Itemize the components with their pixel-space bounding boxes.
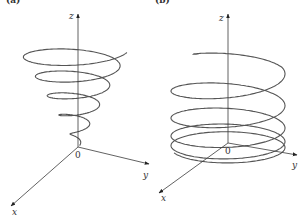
- figure: (a) z y x 0 (b) z y x 0: [0, 0, 300, 219]
- panel-label-a: (a): [6, 0, 20, 5]
- y-axis-label: y: [142, 170, 149, 180]
- origin-label: 0: [225, 146, 231, 156]
- y-axis: [228, 143, 297, 155]
- panel-label-b: (b): [155, 0, 170, 5]
- origin-label: 0: [75, 150, 81, 160]
- panel-b: (b) z y x 0: [155, 0, 298, 203]
- x-axis: [159, 143, 228, 193]
- x-axis-label: x: [161, 193, 166, 203]
- x-axis: [11, 147, 78, 206]
- x-axis-label: x: [12, 207, 17, 217]
- panel-a: (a) z y x 0: [6, 0, 149, 217]
- y-axis: [78, 147, 149, 164]
- y-axis-label: y: [291, 160, 298, 170]
- z-axis-label: z: [68, 11, 74, 21]
- z-axis-label: z: [218, 13, 224, 23]
- conical-spiral-curve: [23, 49, 126, 145]
